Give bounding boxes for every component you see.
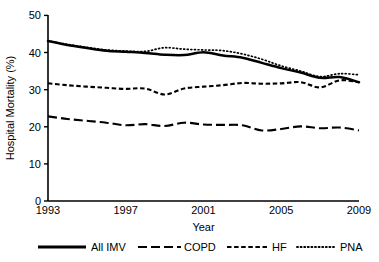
y-tick-label: 50 — [29, 9, 41, 21]
x-tick-label: 1997 — [114, 204, 138, 216]
legend-label-copd: COPD — [184, 241, 216, 253]
y-tick-labels: 50 40 30 20 10 0 — [29, 9, 41, 207]
series-line-hf — [48, 80, 359, 94]
y-tick-label: 30 — [29, 84, 41, 96]
x-axis-title: Year — [192, 221, 215, 233]
series-line-pna — [48, 41, 359, 77]
legend-label-hf: HF — [272, 241, 287, 253]
line-chart: 50 40 30 20 10 0 1993 1997 2001 2005 200… — [0, 0, 379, 262]
y-tick-label: 20 — [29, 121, 41, 133]
y-tick-label: 10 — [29, 158, 41, 170]
chart-figure: 50 40 30 20 10 0 1993 1997 2001 2005 200… — [0, 0, 379, 262]
series-line-all-imv — [48, 41, 359, 82]
y-axis-title: Hospital Mortality (%) — [4, 56, 16, 161]
series-group — [48, 41, 359, 131]
y-tick-label: 40 — [29, 47, 41, 59]
x-tick-label: 2009 — [347, 204, 371, 216]
series-line-copd — [48, 116, 359, 130]
x-tick-labels: 1993 1997 2001 2005 2009 — [36, 204, 371, 216]
chart-legend: All IMV COPD HF PNA — [38, 241, 363, 253]
x-tick-label: 2005 — [269, 204, 293, 216]
legend-label-all-imv: All IMV — [91, 241, 127, 253]
x-tick-label: 1993 — [36, 204, 60, 216]
x-tick-label: 2001 — [191, 204, 215, 216]
legend-label-pna: PNA — [340, 241, 363, 253]
